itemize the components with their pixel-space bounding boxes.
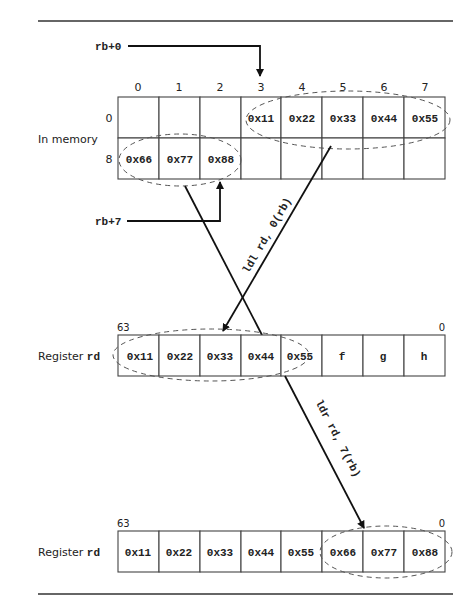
register-cell: g: [380, 351, 387, 363]
register-cell: 0x66: [330, 547, 356, 559]
register-cell: 0x88: [412, 547, 439, 559]
memory-grid: [118, 97, 445, 179]
memory-row-8: 0x66 0x77 0x88: [126, 154, 235, 166]
column-header: 2: [217, 81, 224, 94]
memory-cell: 0x22: [289, 113, 315, 125]
column-header: 1: [176, 81, 183, 94]
memory-cell: 0x55: [412, 113, 439, 125]
column-header: 0: [135, 81, 142, 94]
register-cell: 0x44: [248, 351, 275, 363]
memory-column-headers: 0 1 2 3 4 5 6 7: [135, 81, 429, 94]
register-cell: 0x33: [207, 351, 234, 363]
memory-cell: 0x77: [167, 154, 193, 166]
register-cell: 0x11: [125, 547, 152, 559]
register2-cells: 0x11 0x22 0x33 0x44 0x55 0x66 0x77 0x88: [118, 531, 445, 572]
register2-bit-low: 0: [439, 518, 445, 529]
pointer-rb0-label: rb+0: [95, 41, 121, 53]
ldr-instruction-label: ldr rd, 7(rb): [313, 398, 363, 480]
register-cell: 0x33: [207, 547, 234, 559]
register2-label: Register rd: [38, 546, 100, 559]
pointer-rb7-arrow: [127, 182, 220, 221]
memory-cell: 0x88: [208, 154, 235, 166]
column-header: 5: [340, 81, 347, 94]
row-header: 8: [106, 153, 113, 166]
memory-cell: 0x44: [371, 113, 398, 125]
register-cell: f: [339, 351, 346, 363]
register1-bit-low: 0: [439, 322, 445, 333]
register-cell: 0x44: [248, 547, 275, 559]
register-cell: 0x77: [371, 547, 397, 559]
memory-label: In memory: [38, 133, 98, 146]
register1-bit-high: 63: [117, 322, 130, 333]
row-header: 0: [106, 112, 113, 125]
column-header: 7: [422, 81, 429, 94]
memory-cell: 0x33: [330, 113, 357, 125]
register1-label: Register rd: [38, 350, 100, 363]
ldl-instruction-label: ldl rd, 0(rb): [241, 195, 295, 275]
memory-cell: 0x66: [126, 154, 152, 166]
register-cell: 0x22: [167, 351, 193, 363]
pointer-rb7-label: rb+7: [95, 216, 121, 228]
unaligned-load-diagram: rb+0 0 1 2 3 4 5 6 7 In memory 0 8 0x11 …: [0, 0, 475, 602]
memory-cell: 0x11: [248, 113, 275, 125]
column-header: 6: [381, 81, 388, 94]
register-cell: h: [421, 351, 428, 363]
column-header: 4: [299, 81, 306, 94]
pointer-rb0-arrow: [128, 46, 260, 76]
register2-bit-high: 63: [117, 518, 130, 529]
register1-cells: 0x11 0x22 0x33 0x44 0x55 f g h: [118, 335, 445, 376]
register-cell: 0x11: [127, 351, 154, 363]
register-cell: 0x55: [287, 351, 314, 363]
register-cell: 0x55: [288, 547, 315, 559]
register-cell: 0x22: [166, 547, 192, 559]
column-header: 3: [258, 81, 265, 94]
